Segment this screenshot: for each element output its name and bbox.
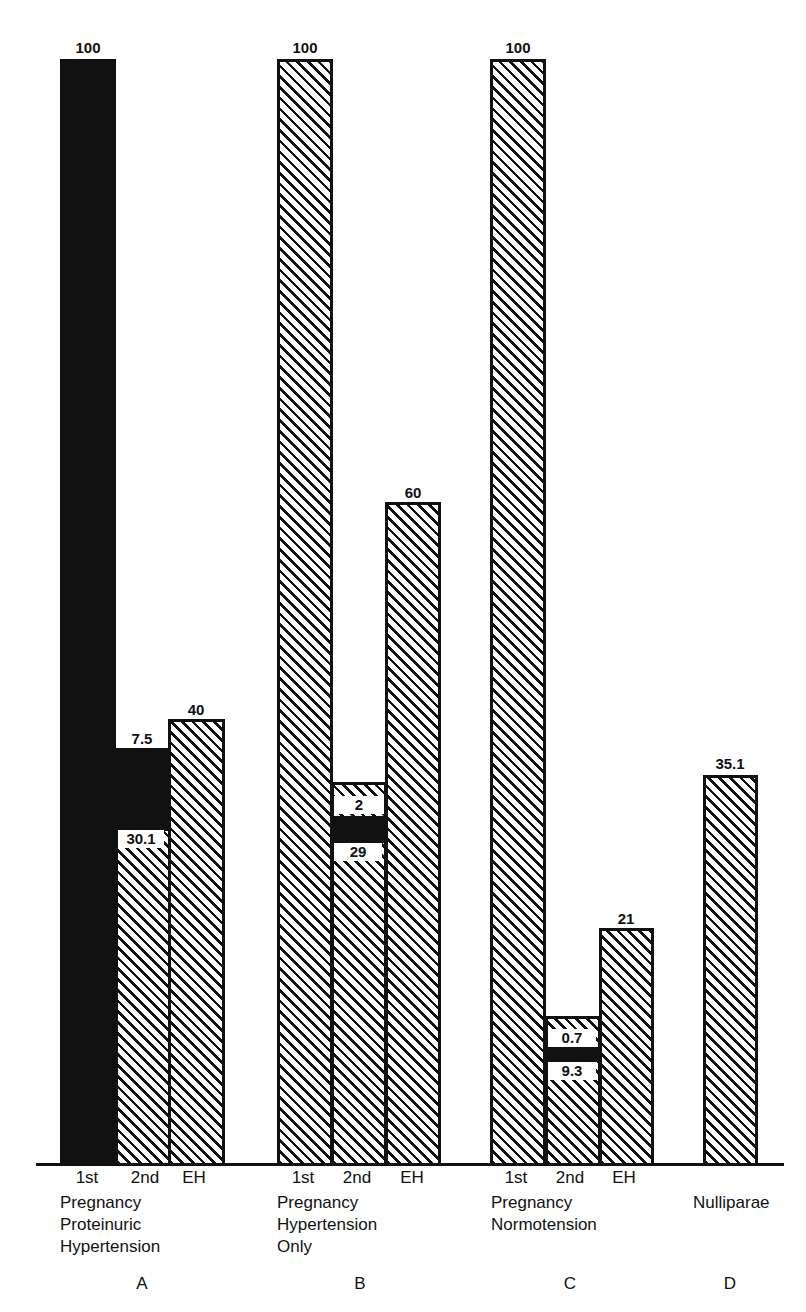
bar-d-nulliparae [703,775,758,1164]
tick-label: 2nd [332,1168,382,1188]
value-label: 2 [334,796,384,814]
value-label: 100 [488,40,548,55]
bar-a-eh [168,719,225,1164]
caption-line: Pregnancy [60,1192,160,1214]
value-label: 0.7 [548,1029,596,1047]
bar-b-eh [385,502,441,1164]
tick-label: 2nd [545,1168,595,1188]
tick-label: 1st [491,1168,541,1188]
caption-line: Normotension [491,1214,597,1236]
bar-b-1st [277,59,333,1164]
value-label: 35.1 [700,756,760,771]
group-letter-c: C [555,1274,585,1294]
bar-a-2nd-solid-segment [115,748,171,831]
value-label: 9.3 [548,1062,596,1080]
tick-label: 1st [278,1168,328,1188]
value-label: 100 [58,40,118,55]
bar-c-1st [490,59,546,1164]
group-letter-a: A [127,1274,157,1294]
caption-line: Hypertension [60,1236,160,1258]
bar-b-2nd-solid-segment [331,816,387,843]
caption-line: Proteinuric [60,1214,160,1236]
caption-line: Pregnancy [277,1192,377,1214]
caption-line: Nulliparae [693,1192,770,1214]
value-label: 100 [275,40,335,55]
tick-label: EH [169,1168,219,1188]
caption-line: Only [277,1236,377,1258]
tick-label: 1st [62,1168,112,1188]
group-letter-b: B [345,1274,375,1294]
group-d-caption: Nulliparae [693,1192,770,1214]
value-label: 40 [166,702,226,717]
tick-label: 2nd [120,1168,170,1188]
bar-c-eh [599,928,654,1164]
value-label: 60 [383,485,443,500]
group-c-caption: Pregnancy Normotension [491,1192,597,1236]
group-b-caption: Pregnancy Hypertension Only [277,1192,377,1258]
bar-c-2nd-solid-segment [545,1047,601,1062]
group-a-caption: Pregnancy Proteinuric Hypertension [60,1192,160,1258]
caption-line: Hypertension [277,1214,377,1236]
x-axis [36,1163,784,1166]
value-label: 30.1 [118,830,164,848]
tick-label: EH [599,1168,649,1188]
value-label: 29 [334,843,382,861]
value-label: 7.5 [118,730,166,748]
caption-line: Pregnancy [491,1192,597,1214]
group-letter-d: D [715,1274,745,1294]
bar-a-1st [60,59,116,1164]
value-label: 21 [596,911,656,926]
tick-label: EH [387,1168,437,1188]
